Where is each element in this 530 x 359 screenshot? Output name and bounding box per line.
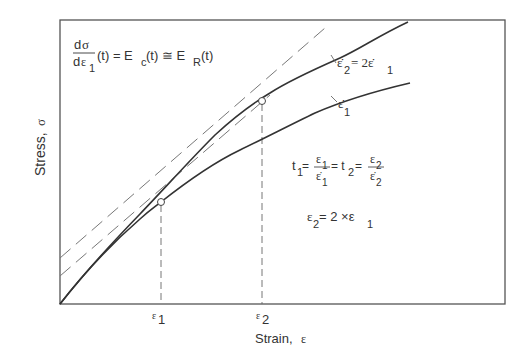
tangent-modulus-equation: d σ d ε 1 (t) = E c (t) ≅ E R (t) xyxy=(73,37,213,74)
svg-text:ε: ε xyxy=(152,310,156,321)
x-tick-epsilon2: ε 2 xyxy=(256,310,269,327)
svg-text:Strain,: Strain, xyxy=(255,331,293,346)
svg-text:1: 1 xyxy=(367,218,373,230)
label-fast-rate: ε̇ 2 = 2ε̇ 1 xyxy=(337,55,393,76)
svg-text:ε: ε xyxy=(81,55,86,69)
y-axis-label: Stress, σ xyxy=(32,119,48,176)
svg-text:1: 1 xyxy=(322,177,328,188)
svg-text:1: 1 xyxy=(89,62,95,74)
svg-text:=: = xyxy=(302,159,309,173)
svg-text:= t: = t xyxy=(331,159,345,173)
svg-text:1: 1 xyxy=(344,106,350,118)
svg-text:t: t xyxy=(292,158,296,173)
svg-text:ε: ε xyxy=(301,332,306,346)
svg-text:= 2ε̇: = 2ε̇ xyxy=(351,55,375,70)
label-slow-rate: ε̇ 1 xyxy=(338,96,350,118)
svg-text:2: 2 xyxy=(376,160,382,171)
svg-text:=: = xyxy=(355,159,362,173)
curve-slow-rate xyxy=(60,83,410,304)
svg-text:(t): (t) xyxy=(201,48,213,63)
stress-strain-chart: d σ d ε 1 (t) = E c (t) ≅ E R (t) ε̇ 2 =… xyxy=(0,0,530,359)
strain-relation: ε 2 = 2 ×ε 1 xyxy=(307,209,373,230)
svg-text:ε: ε xyxy=(370,152,375,166)
marker-epsilon2 xyxy=(259,98,266,105)
svg-text:1: 1 xyxy=(158,312,165,327)
svg-text:2: 2 xyxy=(344,64,350,76)
svg-text:Stress,: Stress, xyxy=(32,132,48,176)
svg-text:σ: σ xyxy=(82,37,89,52)
svg-text:2: 2 xyxy=(348,166,354,178)
svg-text:2: 2 xyxy=(376,177,382,188)
svg-text:1: 1 xyxy=(387,64,393,76)
svg-text:R: R xyxy=(193,56,201,68)
svg-text:= 2 ×ε: = 2 ×ε xyxy=(319,209,355,224)
x-axis-label: Strain, ε xyxy=(255,331,306,346)
time-equation: t 1 = ε 1 ε̇ 1 = t 2 = ε 2 ε̇ 2 xyxy=(292,152,384,188)
svg-text:2: 2 xyxy=(262,312,269,327)
leader-slow xyxy=(331,96,337,102)
svg-text:(t) = E: (t) = E xyxy=(97,48,133,63)
svg-text:σ: σ xyxy=(33,119,48,126)
marker-epsilon1 xyxy=(158,199,165,206)
svg-text:d: d xyxy=(73,54,80,69)
tangent-line-lower xyxy=(60,95,270,276)
svg-text:(t) ≅ E: (t) ≅ E xyxy=(146,48,185,63)
svg-text:ε: ε xyxy=(316,152,321,166)
svg-text:d: d xyxy=(74,37,81,52)
svg-text:1: 1 xyxy=(322,160,328,171)
svg-text:ε: ε xyxy=(256,310,260,321)
x-tick-epsilon1: ε 1 xyxy=(152,310,165,327)
